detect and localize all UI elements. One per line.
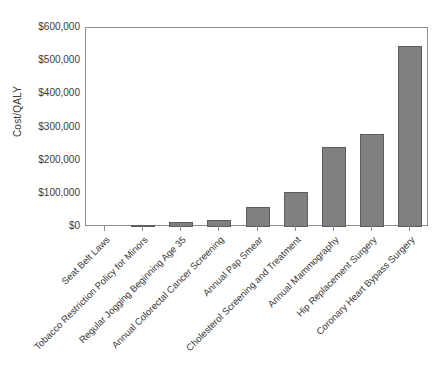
x-tick-mark: [180, 226, 181, 231]
bar: [207, 220, 231, 227]
x-tick-mark: [142, 226, 143, 231]
plot-area: [85, 27, 428, 226]
y-tick-label: $600,000: [0, 22, 80, 32]
y-axis-title: Cost/QALY: [12, 67, 23, 157]
x-tick-mark: [295, 226, 296, 231]
y-tick-label: $300,000: [0, 122, 80, 132]
x-tick-mark: [104, 226, 105, 231]
bar: [246, 207, 270, 227]
x-tick-mark: [257, 226, 258, 231]
bar: [322, 147, 346, 227]
bar-chart: Cost/QALY $600,000$500,000$400,000$300,0…: [0, 0, 447, 381]
x-tick-mark: [333, 226, 334, 231]
bar: [398, 46, 422, 227]
x-tick-label: Annual Mammography: [191, 234, 340, 381]
bar: [360, 134, 384, 227]
y-tick-label: $200,000: [0, 155, 80, 165]
x-tick-label: Coronary Heart Bypass Surgery: [268, 234, 417, 381]
y-tick-label: $400,000: [0, 88, 80, 98]
bar: [131, 225, 155, 227]
x-tick-label: Cholesterol Screening and Treatment: [153, 234, 302, 381]
x-tick-mark: [218, 226, 219, 231]
x-tick-mark: [409, 226, 410, 231]
bar: [169, 222, 193, 227]
bar: [284, 192, 308, 227]
x-tick-label: Annual Pap Smear: [115, 234, 264, 381]
x-tick-mark: [371, 226, 372, 231]
y-tick-label: $100,000: [0, 188, 80, 198]
x-tick-label: Regular Jogging Beginning Age 35: [39, 234, 188, 381]
y-tick-label: $500,000: [0, 55, 80, 65]
y-tick-label: $0: [0, 221, 80, 231]
x-tick-label: Annual Colorectal Cancer Screening: [77, 234, 226, 381]
x-tick-label: Hip Replacement Surgery: [229, 234, 378, 381]
x-tick-label: Tobacco Restriction Policy for Minors: [1, 234, 150, 381]
